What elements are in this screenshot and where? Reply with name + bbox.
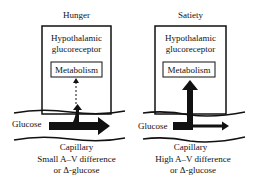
satiety-caption-line1: High A–V difference — [138, 154, 248, 164]
hunger-metabolism-label: Metabolism — [51, 65, 102, 75]
hunger-glucose-arrow — [49, 117, 110, 135]
hunger-caption-line2: or Δ-glucose — [20, 165, 133, 175]
hunger-capillary-top — [14, 110, 125, 114]
satiety-uptake-arrow — [187, 88, 193, 126]
hunger-capillary-label: Capillary — [42, 142, 111, 152]
hunger-capillary-bottom — [14, 137, 125, 141]
hunger-receptor-line2: glucoreceptor — [42, 44, 111, 54]
satiety-receptor-line1: Hypothalamic — [155, 33, 226, 43]
satiety-glucose-label: Glucose — [138, 121, 168, 131]
satiety-title: Satiety — [155, 10, 226, 20]
satiety-capillary-label: Capillary — [155, 142, 226, 152]
hunger-title: Hunger — [42, 10, 111, 20]
hunger-receptor-line1: Hypothalamic — [42, 33, 111, 43]
hunger-glucose-label: Glucose — [12, 119, 42, 129]
satiety-metabolism-label: Metabolism — [163, 65, 215, 75]
satiety-glucose-arrow — [173, 122, 193, 130]
satiety-caption-line2: or Δ-glucose — [138, 165, 248, 175]
satiety-receptor-line2: glucoreceptor — [155, 44, 226, 54]
hunger-caption-line1: Small A–V difference — [20, 154, 133, 164]
